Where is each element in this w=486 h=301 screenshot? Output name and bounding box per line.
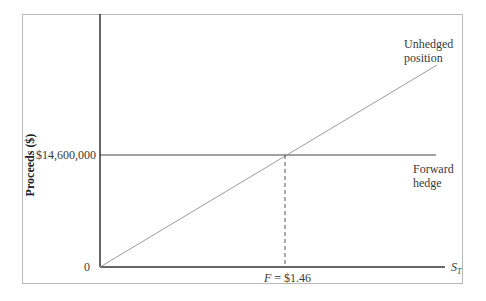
y-axis-label: Proceeds ($) [23,134,38,197]
y-tick-zero: 0 [0,260,90,274]
unhedged-position-line [100,65,437,267]
x-axis-label: ST [451,260,461,279]
x-axis-label-sub: T [457,267,461,276]
forward-label-line2: hedge [413,176,454,190]
forward-label-line1: Forward [413,162,454,176]
x-tick-forward-rate-text: = $1.46 [271,271,311,285]
unhedged-position-label: Unhedged position [404,37,453,65]
unhedged-label-line1: Unhedged [404,37,453,51]
forward-hedge-label: Forward hedge [413,162,454,190]
unhedged-label-line2: position [404,51,453,65]
x-tick-forward-rate: F = $1.46 [264,271,311,285]
y-tick-14600000: $14,600,000 [6,148,96,162]
